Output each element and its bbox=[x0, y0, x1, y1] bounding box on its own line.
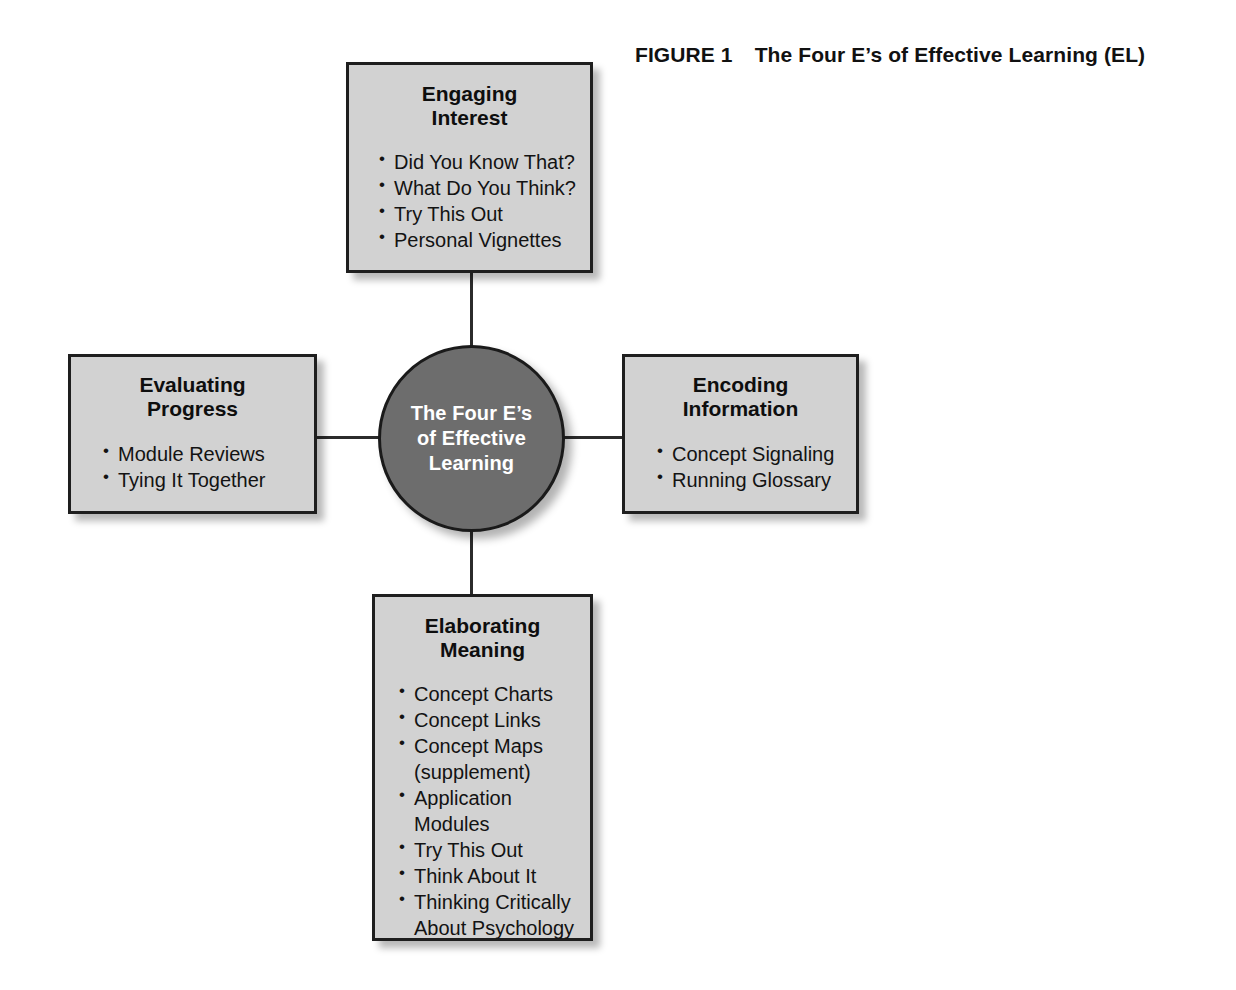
node-box-content: Encoding Information Concept Signaling R… bbox=[625, 373, 856, 527]
list-item: Concept Charts bbox=[399, 681, 590, 707]
node-list-elaborating-meaning: Concept Charts Concept Links Concept Map… bbox=[399, 681, 590, 941]
node-box-evaluating-progress[interactable]: Evaluating Progress Module Reviews Tying… bbox=[68, 354, 317, 514]
figure-caption: FIGURE 1The Four E’s of Effective Learni… bbox=[635, 43, 1145, 67]
list-item: Tying It Together bbox=[103, 467, 314, 493]
figure-canvas: FIGURE 1The Four E’s of Effective Learni… bbox=[0, 0, 1236, 990]
node-title-encoding-information: Encoding Information bbox=[625, 373, 856, 421]
list-item: Concept Signaling bbox=[657, 441, 856, 467]
connector-bottom bbox=[470, 528, 473, 597]
node-title-evaluating-progress: Evaluating Progress bbox=[71, 373, 314, 421]
list-item: Concept Maps bbox=[399, 733, 590, 759]
list-item: Try This Out bbox=[399, 837, 590, 863]
node-box-encoding-information[interactable]: Encoding Information Concept Signaling R… bbox=[622, 354, 859, 514]
list-item: Think About It bbox=[399, 863, 590, 889]
node-list-evaluating-progress: Module Reviews Tying It Together bbox=[103, 441, 314, 493]
node-box-engaging-interest[interactable]: Engaging Interest Did You Know That? Wha… bbox=[346, 62, 593, 273]
node-title-elaborating-meaning: Elaborating Meaning bbox=[375, 614, 590, 662]
node-box-content: Elaborating Meaning Concept Charts Conce… bbox=[375, 614, 590, 955]
node-list-encoding-information: Concept Signaling Running Glossary bbox=[657, 441, 856, 493]
list-item: Module Reviews bbox=[103, 441, 314, 467]
connector-left bbox=[316, 436, 382, 439]
list-item: Concept Links bbox=[399, 707, 590, 733]
node-box-content: Evaluating Progress Module Reviews Tying… bbox=[71, 373, 314, 527]
figure-title: The Four E’s of Effective Learning (EL) bbox=[755, 43, 1146, 66]
list-item: Running Glossary bbox=[657, 467, 856, 493]
node-title-engaging-interest: Engaging Interest bbox=[349, 82, 590, 130]
list-item: What Do You Think? bbox=[379, 175, 590, 201]
list-item: Did You Know That? bbox=[379, 149, 590, 175]
list-item: Thinking Critically bbox=[399, 889, 590, 915]
node-list-engaging-interest: Did You Know That? What Do You Think? Tr… bbox=[379, 149, 590, 253]
center-circle-label: The Four E’s of Effective Learning bbox=[411, 401, 533, 475]
list-item-continuation: (supplement) bbox=[399, 759, 590, 785]
connector-right bbox=[561, 436, 625, 439]
node-box-elaborating-meaning[interactable]: Elaborating Meaning Concept Charts Conce… bbox=[372, 594, 593, 941]
figure-number: FIGURE 1 bbox=[635, 43, 733, 66]
list-item: Personal Vignettes bbox=[379, 227, 590, 253]
center-circle-node[interactable]: The Four E’s of Effective Learning bbox=[378, 345, 565, 532]
list-item-continuation: About Psychology bbox=[399, 915, 590, 941]
list-item: Try This Out bbox=[379, 201, 590, 227]
node-box-content: Engaging Interest Did You Know That? Wha… bbox=[349, 82, 590, 287]
list-item: Application Modules bbox=[399, 785, 590, 837]
